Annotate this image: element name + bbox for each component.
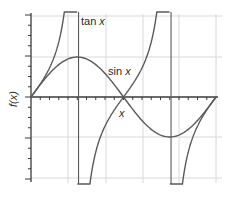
- tan-curve-branch: [77, 12, 169, 184]
- tan-label: tan x: [81, 15, 105, 27]
- tan-curve-branch: [170, 97, 216, 184]
- y-axis-label: f(x): [7, 91, 19, 107]
- axes: [25, 13, 218, 182]
- sin-label: sin x: [108, 65, 131, 77]
- tan-curve-branch: [31, 12, 77, 97]
- function-plot: tan x sin x x f(x): [0, 0, 229, 199]
- x-axis-label: x: [118, 107, 125, 119]
